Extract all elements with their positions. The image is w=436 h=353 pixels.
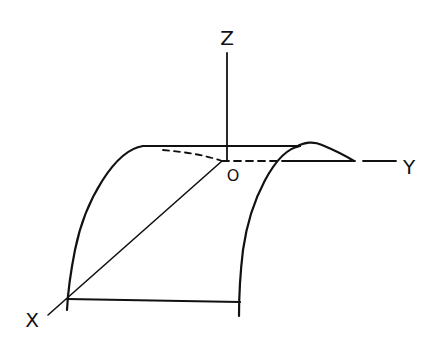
hidden-curve-dashed (163, 150, 222, 161)
diagram-canvas: Z Y X O (0, 0, 436, 353)
x-axis-label: X (25, 310, 39, 330)
right-surface-edge (239, 146, 300, 316)
z-axis-label: Z (220, 28, 234, 48)
y-axis-label: Y (403, 157, 415, 177)
parabolic-cylinder-figure (0, 0, 436, 353)
x-axis-line (48, 161, 222, 315)
bottom-edge-line (67, 299, 240, 302)
origin-label: O (227, 168, 240, 184)
left-surface-edge (67, 146, 143, 310)
